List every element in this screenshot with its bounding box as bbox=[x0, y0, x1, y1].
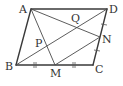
single-tick-nc bbox=[94, 50, 100, 51]
label-q: Q bbox=[71, 12, 80, 25]
label-p: P bbox=[35, 37, 43, 50]
label-b: B bbox=[5, 60, 13, 73]
segment-mn bbox=[55, 37, 100, 65]
label-a: A bbox=[18, 3, 28, 16]
diagonal-bd bbox=[16, 9, 107, 65]
label-c: C bbox=[95, 63, 103, 76]
edge-ba bbox=[16, 9, 31, 65]
label-d: D bbox=[109, 3, 118, 16]
label-n: N bbox=[102, 33, 112, 46]
label-m: M bbox=[50, 67, 61, 80]
single-tick-dn bbox=[101, 24, 107, 25]
parallelogram-diagram: A D B C M N P Q bbox=[0, 0, 123, 86]
